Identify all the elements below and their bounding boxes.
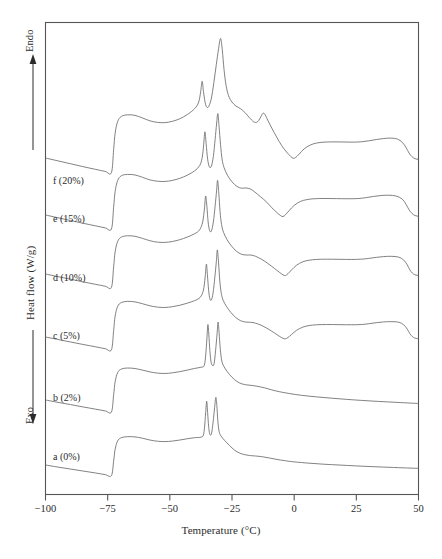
axis-direction-arrows — [30, 54, 37, 424]
curve-traces — [46, 38, 419, 476]
exo-label: Exo — [24, 407, 35, 424]
curve-label-a: a (0%) — [53, 451, 80, 462]
plot-frame — [46, 23, 419, 495]
x-axis-label: Temperature (°C) — [0, 524, 442, 536]
x-tick-label: −50 — [140, 503, 200, 514]
curve-label-d: d (10%) — [53, 272, 86, 283]
curve-label-f: f (20%) — [53, 175, 84, 186]
x-tick-label: 0 — [264, 503, 324, 514]
y-axis-label: Heat flow (W/g) — [24, 246, 36, 320]
x-tick-label: −75 — [78, 503, 138, 514]
curve-c — [46, 250, 419, 351]
endo-arrow-icon — [30, 54, 37, 64]
curve-e — [46, 114, 419, 231]
curve-d — [46, 180, 419, 288]
curve-f — [46, 38, 419, 174]
curve-a — [46, 397, 419, 476]
curve-label-b: b (2%) — [53, 392, 81, 403]
curve-b — [46, 322, 419, 413]
x-tick-label: 50 — [389, 503, 442, 514]
endo-label: Endo — [24, 29, 35, 52]
figure-dsc-thermogram: Endo Exo Heat flow (W/g) Temperature (°C… — [0, 0, 442, 559]
curve-label-c: c (5%) — [53, 330, 80, 341]
x-axis-ticks — [46, 495, 419, 501]
x-tick-label: −100 — [16, 503, 76, 514]
x-tick-label: −25 — [202, 503, 262, 514]
curve-label-e: e (15%) — [53, 213, 85, 224]
x-tick-label: 25 — [326, 503, 386, 514]
